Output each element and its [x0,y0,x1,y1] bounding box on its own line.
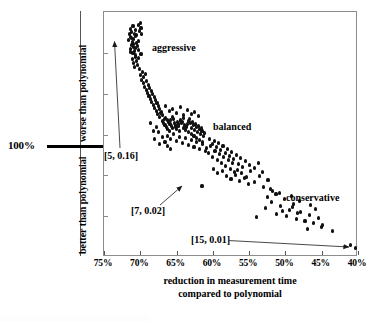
scatter-point [229,167,232,170]
scatter-point [152,129,155,132]
scatter-point [270,200,273,203]
scatter-point [149,121,152,124]
x-axis-tick [249,251,250,255]
scatter-point [155,125,158,128]
scatter-point [216,171,219,174]
scatter-point [197,114,200,117]
scatter-point [220,161,223,164]
chart-figure: worse than polynomial better than polyno… [0,0,383,326]
scatter-point [331,229,334,232]
scatter-point [178,129,181,132]
y-axis-tick [104,135,108,136]
scatter-point [320,225,323,228]
scatter-point [232,157,235,160]
scatter-point [225,174,228,177]
scatter-point [281,209,284,212]
scatter-point [224,151,227,154]
scatter-point [187,143,190,146]
scatter-point [157,130,160,133]
y-axis-tick [104,175,108,176]
scatter-point [212,167,215,170]
scatter-point [349,243,352,246]
scatter-point [158,115,161,118]
scatter-point [308,213,311,216]
scatter-point [264,206,267,209]
scatter-point [139,21,142,24]
scatter-point [222,155,225,158]
scatter-point [131,57,134,60]
scatter-point [134,28,137,31]
scatter-point [142,81,145,84]
x-axis-tick [322,251,323,255]
scatter-point [178,135,181,138]
scatter-point [229,177,232,180]
scatter-point [184,136,187,139]
x-axis-tick-label: 55% [239,258,257,268]
y-axis-tick [104,53,108,54]
x-axis-tick-label: 60% [203,258,221,268]
scatter-point [128,32,131,35]
scatter-point [275,212,278,215]
y-axis-tick [104,94,108,95]
scatter-point [139,52,142,55]
scatter-point [203,131,206,134]
scatter-point [253,166,256,169]
scatter-point [258,174,261,177]
scatter-point [253,180,256,183]
scatter-point [216,158,219,161]
scatter-point [274,192,277,195]
scatter-point [137,56,140,59]
scatter-point [312,221,315,224]
scatter-point [201,142,204,145]
scatter-point [153,137,156,140]
scatter-point [238,179,241,182]
y-axis-label-better: better than polynomial [77,156,88,254]
scatter-point [176,124,179,127]
x-axis-tick-label: 45% [312,258,330,268]
scatter-point [247,182,250,185]
scatter-point [299,210,302,213]
scatter-point [130,36,133,39]
scatter-point [213,149,216,152]
scatter-point [249,169,252,172]
scatter-point [161,135,164,138]
scatter-point [278,191,281,194]
x-axis-tick-labels: 75%70%65%60%55%50%45%40% [103,258,357,272]
scatter-point [266,178,269,181]
scatter-point [168,109,171,112]
scatter-point [158,142,161,145]
y-axis-reference-label: 100% [8,139,35,151]
scatter-point [131,42,134,45]
scatter-point [179,105,182,108]
scatter-point [145,79,148,82]
scatter-point [230,150,233,153]
scatter-point [241,165,244,168]
scatter-point [261,170,264,173]
scatter-point [279,204,282,207]
x-axis-tick [358,251,359,255]
scatter-point [175,111,178,114]
cluster-label-balanced: balanced [213,121,251,132]
x-axis-tick-label: 75% [94,258,112,268]
scatter-point [211,155,214,158]
scatter-point [244,159,247,162]
scatter-point [186,108,189,111]
scatter-point [200,126,203,129]
scatter-point [172,117,175,120]
scatter-point [221,144,224,147]
cluster-label-conservative: conservative [286,192,339,203]
scatter-point [207,151,210,154]
scatter-point [217,141,220,144]
scatter-point [164,104,167,107]
page-scan-artifact [0,316,150,322]
scatter-point [132,61,135,64]
scatter-point [140,32,143,35]
scatter-point [211,142,214,145]
scatter-point [255,215,258,218]
scatter-point [240,171,243,174]
scatter-point [192,145,195,148]
scatter-point [248,163,251,166]
scatter-point [262,185,265,188]
scatter-point [257,161,260,164]
scatter-point [224,164,227,167]
